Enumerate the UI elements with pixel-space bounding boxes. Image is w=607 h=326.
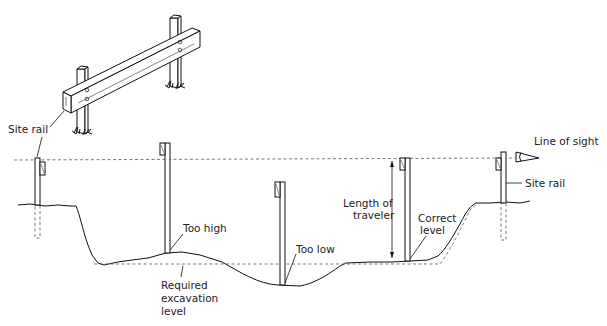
label-required-2: excavation <box>161 292 218 304</box>
label-site-rail-top: Site rail <box>8 123 48 135</box>
leader-site-rail-top <box>50 111 64 127</box>
traveler-correct <box>400 158 410 261</box>
label-length-of-traveler-1: Length of <box>343 197 393 209</box>
label-required-3: level <box>161 305 186 317</box>
leader-correct-level <box>410 236 426 259</box>
leader-site-rail-top-2 <box>37 137 42 157</box>
label-line-of-sight: Line of sight <box>534 135 599 147</box>
site-rail-perspective: Site rail <box>8 15 200 157</box>
leader-required-level <box>181 266 183 277</box>
label-correct-level-1: Correct <box>418 212 456 224</box>
label-required-1: Required <box>161 279 208 291</box>
leader-too-high <box>170 234 183 250</box>
label-correct-level-2: level <box>420 224 445 236</box>
label-too-low: Too low <box>295 243 335 255</box>
left-site-rail-stake <box>35 158 45 238</box>
label-too-high: Too high <box>182 222 227 234</box>
leader-too-low <box>285 254 296 283</box>
traveler-too-low <box>275 182 285 285</box>
traveler-too-high <box>160 143 170 253</box>
label-site-rail-right: Site rail <box>525 177 565 189</box>
label-length-of-traveler-2: traveler <box>353 209 395 221</box>
eye-icon <box>516 152 539 162</box>
excavation-diagram: Site rail Line of sight Too high Too low <box>0 0 607 326</box>
right-site-rail-stake <box>496 152 506 240</box>
line-of-sight <box>14 158 515 160</box>
